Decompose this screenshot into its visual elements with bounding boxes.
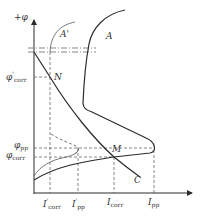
y-axis-label: +φ [14, 13, 28, 22]
curve-A-prime-dashed [51, 134, 78, 154]
polarization-diagram [0, 0, 204, 223]
tick-I-corr: Icorr [107, 198, 123, 208]
label-A: A [106, 32, 113, 41]
label-M: M [112, 145, 121, 154]
label-C: C [134, 176, 141, 185]
curve-A-prime-lower [34, 150, 78, 176]
tick-phi-pp: φpp [14, 141, 28, 151]
tick-phi-corr-prime: φ'corr [6, 71, 27, 83]
tick-I-pp-prime: I'pp [72, 198, 85, 210]
label-N: N [54, 73, 62, 82]
curve-A [34, 10, 155, 180]
tick-I-pp: Ipp [148, 198, 159, 208]
label-A-prime: A' [60, 30, 69, 39]
tick-phi-corr: φcorr [6, 151, 25, 161]
tick-I-corr-prime: I'corr [43, 198, 61, 210]
